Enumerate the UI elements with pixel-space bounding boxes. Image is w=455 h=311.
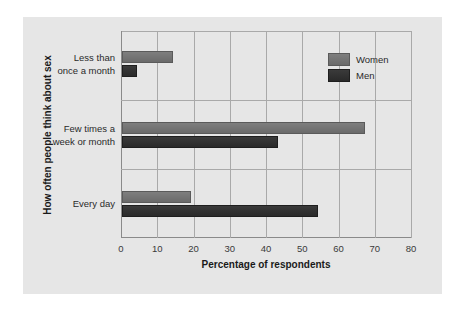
legend-swatch-women: [328, 53, 350, 66]
y-axis-title: How often people think about sex: [42, 55, 53, 214]
x-axis-title: Percentage of respondents: [121, 259, 411, 270]
bar-men: [122, 136, 278, 148]
legend-label-women: Women: [356, 53, 389, 66]
category-label-line: once a month: [57, 64, 115, 77]
x-tick-label: 70: [363, 243, 387, 254]
x-tick-label: 80: [399, 243, 423, 254]
category-label-line: Less than: [57, 51, 115, 64]
legend-swatch-men: [328, 69, 350, 82]
x-tick-label: 30: [218, 243, 242, 254]
bar-men: [122, 65, 137, 77]
x-tick-label: 40: [254, 243, 278, 254]
x-tick-label: 50: [290, 243, 314, 254]
category-label-line: week or month: [53, 135, 115, 148]
bar-women: [122, 191, 191, 203]
x-tick-label: 0: [109, 243, 133, 254]
x-tick-label: 60: [327, 243, 351, 254]
bar-men: [122, 205, 318, 217]
gridline-vertical: [411, 31, 412, 238]
category-label-line: Few times a: [53, 122, 115, 135]
category-label: Every day: [73, 197, 115, 210]
gridline-horizontal: [121, 169, 411, 170]
x-tick-label: 20: [182, 243, 206, 254]
category-label: Few times aweek or month: [53, 122, 115, 148]
bar-women: [122, 122, 365, 134]
legend-label-men: Men: [356, 69, 374, 82]
bar-women: [122, 51, 173, 63]
gridline-horizontal: [121, 100, 411, 101]
x-tick-label: 10: [145, 243, 169, 254]
category-label: Less thanonce a month: [57, 51, 115, 77]
category-label-line: Every day: [73, 197, 115, 210]
